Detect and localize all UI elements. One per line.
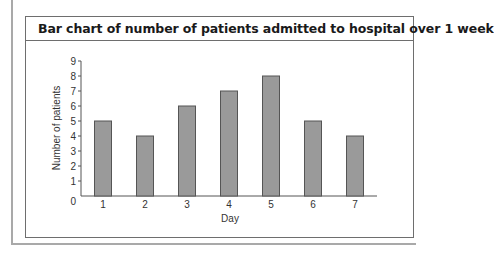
bar-day-7 [347, 136, 364, 196]
y-tick-label: 5 [70, 116, 76, 127]
y-tick-label: 3 [70, 146, 76, 157]
bar-day-2 [137, 136, 154, 196]
bar-day-3 [179, 106, 196, 196]
x-axis: 1234567 [81, 196, 377, 210]
x-tick-label: 2 [142, 199, 148, 210]
y-tick-label: 8 [70, 71, 76, 82]
y-tick-label: 1 [70, 176, 76, 187]
bars [95, 76, 364, 196]
y-tick-label: 9 [70, 56, 76, 67]
x-tick-label: 1 [100, 199, 106, 210]
bar-day-6 [305, 121, 322, 196]
y-tick-label: 0 [70, 196, 76, 207]
y-tick-label: 4 [70, 131, 76, 142]
y-axis-title: Number of patients [51, 86, 62, 171]
x-axis-title: Day [221, 213, 239, 224]
x-tick-label: 3 [184, 199, 190, 210]
y-tick-label: 2 [70, 161, 76, 172]
bar-day-5 [263, 76, 280, 196]
x-tick-label: 6 [310, 199, 316, 210]
y-tick-label: 6 [70, 101, 76, 112]
x-tick-label: 5 [268, 199, 274, 210]
bar-day-4 [221, 91, 238, 196]
y-axis: 0123456789 [70, 56, 81, 208]
bar-day-1 [95, 121, 112, 196]
y-tick-label: 7 [70, 86, 76, 97]
x-tick-label: 7 [352, 199, 358, 210]
x-tick-label: 4 [226, 199, 232, 210]
